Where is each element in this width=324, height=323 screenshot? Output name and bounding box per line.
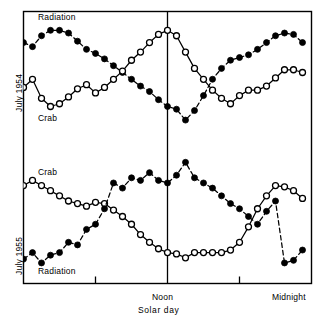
- series-label-crab-1954: Crab: [38, 113, 57, 123]
- x-axis-label: Solar day: [138, 305, 179, 315]
- series-label-radiation-1955: Radiation: [38, 266, 76, 276]
- series-label-radiation-1954: Radiation: [38, 12, 76, 22]
- x-tick-label-noon: Noon: [152, 292, 173, 302]
- x-tick-label-midnight: Midnight: [272, 292, 306, 302]
- y-axis-label-1955: July 1955: [14, 237, 24, 275]
- series-label-crab-1955: Crab: [38, 167, 57, 177]
- y-axis-label-1954: July 1954: [14, 74, 24, 112]
